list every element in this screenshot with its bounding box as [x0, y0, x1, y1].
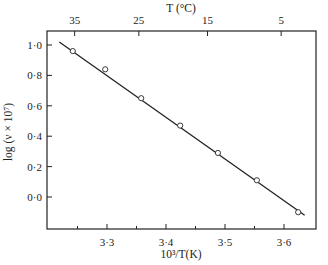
x-axis-title: 10³/T(K)	[160, 248, 201, 261]
top-tick-label: 35	[69, 14, 81, 26]
data-point	[178, 123, 183, 128]
y-tick-label: 0·8	[27, 69, 42, 81]
top-axis-title: T (°C)	[166, 2, 196, 15]
y-tick-label: 0·2	[27, 161, 42, 173]
x-tick-label: 3·3	[100, 236, 115, 248]
x-tick-label: 3·4	[159, 236, 174, 248]
data-point	[296, 210, 301, 215]
data-series	[59, 42, 304, 215]
x-tick-label: 3·5	[218, 236, 233, 248]
y-tick-label: 1·0	[27, 39, 42, 51]
tick-labels: 3·33·43·53·60·00·20·40·60·81·03525155	[27, 14, 291, 248]
plot-frame	[47, 31, 316, 229]
top-tick-label: 5	[278, 14, 284, 26]
data-point	[103, 67, 108, 72]
x-tick-label: 3·6	[277, 236, 292, 248]
data-point	[215, 150, 220, 155]
axis-ticks	[47, 31, 284, 229]
top-tick-label: 25	[133, 14, 145, 26]
data-point	[70, 48, 75, 53]
y-axis-title: log (ν × 10⁷)	[2, 103, 15, 161]
top-tick-label: 15	[202, 14, 214, 26]
data-point	[254, 178, 259, 183]
plot-border	[47, 31, 316, 229]
y-tick-label: 0·6	[27, 100, 42, 112]
fit-line	[59, 42, 304, 215]
y-tick-label: 0·0	[27, 191, 42, 203]
data-point	[139, 96, 144, 101]
arrhenius-chart: 3·33·43·53·60·00·20·40·60·81·03525155 10…	[0, 0, 328, 265]
y-tick-label: 0·4	[27, 130, 42, 142]
